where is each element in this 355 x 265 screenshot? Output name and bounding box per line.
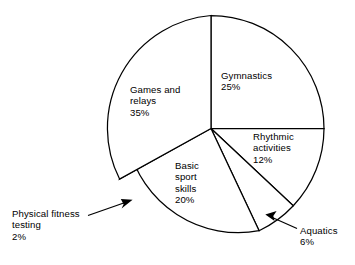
slice-label-physical-fitness-testing: Physical fitness testing 2% <box>12 208 80 242</box>
slice-label-aquatics: Aquatics 6% <box>300 225 338 248</box>
slice-label-rhythmic-activities: Rhythmic activities 12% <box>253 131 294 165</box>
slice-label-games-and-relays: Games and relays 35% <box>130 84 181 118</box>
slice-label-basic-sport-skills: Basic sport skills 20% <box>175 160 199 206</box>
slice-label-gymnastics: Gymnastics 25% <box>221 70 272 93</box>
pie-chart-figure: Gymnastics 25% Games and relays 35% Rhyt… <box>0 0 355 265</box>
callout-line-physical-fitness-testing <box>88 202 128 216</box>
